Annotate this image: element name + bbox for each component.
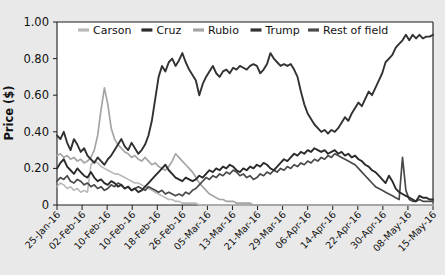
y-tick-label: 0.20: [23, 161, 49, 175]
y-tick-label: 0.60: [23, 88, 49, 102]
legend-label-cruz: Cruz: [156, 24, 181, 37]
x-axis-tick-labels: 25-Jan-1602-Feb-1610-Feb-1610-Feb-1618-F…: [23, 209, 439, 254]
legend-label-rubio: Rubio: [208, 24, 239, 37]
y-tick-label: 0: [42, 198, 49, 212]
y-axis-tick-labels: 00.200.400.600.801.00: [23, 15, 49, 212]
y-axis-ticks: [53, 22, 57, 205]
y-axis-title: Price ($): [2, 85, 16, 140]
plot-area-background: [57, 22, 433, 205]
y-tick-label: 1.00: [23, 15, 49, 29]
legend-label-trump: Trump: [265, 24, 300, 37]
chart-container: 00.200.400.600.801.00 25-Jan-1602-Feb-16…: [0, 0, 445, 275]
y-tick-label: 0.80: [23, 52, 49, 66]
y-tick-label: 0.40: [23, 125, 49, 139]
legend-label-rest-of-field: Rest of field: [323, 24, 388, 37]
legend-label-carson: Carson: [93, 24, 131, 37]
line-chart: 00.200.400.600.801.00 25-Jan-1602-Feb-16…: [0, 0, 445, 275]
chart-legend: CarsonCruzRubioTrumpRest of field: [78, 24, 388, 37]
